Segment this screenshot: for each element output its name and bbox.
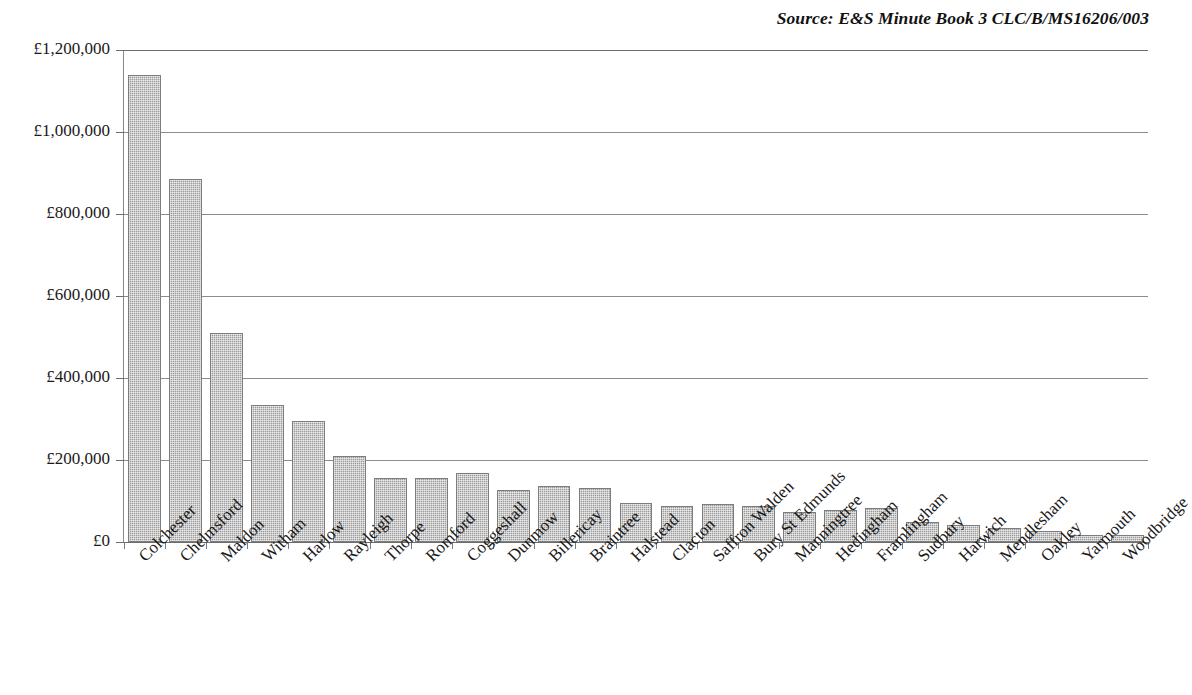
y-axis-tick: [116, 460, 124, 461]
x-axis-tick: [124, 542, 125, 549]
gridline: [124, 132, 1148, 133]
gridline: [124, 214, 1148, 215]
gridline: [124, 50, 1148, 51]
gridline: [124, 378, 1148, 379]
bar: [128, 75, 161, 542]
y-axis-labels: £0£200,000£400,000£600,000£800,000£1,000…: [0, 0, 116, 695]
y-axis-tick-label: £400,000: [0, 367, 110, 387]
y-axis-tick: [116, 132, 124, 133]
y-axis-tick-label: £1,000,000: [0, 121, 110, 141]
source-annotation: Source: E&S Minute Book 3 CLC/B/MS16206/…: [777, 8, 1149, 29]
y-axis-tick-label: £0: [0, 531, 110, 551]
y-axis-tick: [116, 214, 124, 215]
y-axis-tick-label: £600,000: [0, 285, 110, 305]
y-axis-tick-label: £200,000: [0, 449, 110, 469]
y-axis-tick-label: £1,200,000: [0, 39, 110, 59]
bar: [169, 179, 202, 542]
y-axis-tick: [116, 542, 124, 543]
plot-area: [124, 50, 1148, 542]
y-axis-tick: [116, 296, 124, 297]
gridline: [124, 296, 1148, 297]
y-axis-tick-label: £800,000: [0, 203, 110, 223]
y-axis-tick: [116, 378, 124, 379]
y-axis-tick: [116, 50, 124, 51]
